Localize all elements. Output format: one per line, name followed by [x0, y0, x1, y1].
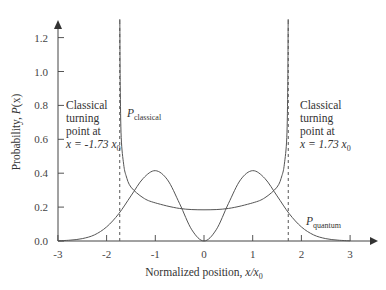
svg-text:0.6: 0.6 — [34, 133, 48, 145]
svg-text:-3: -3 — [53, 248, 63, 260]
svg-text:3: 3 — [347, 248, 353, 260]
svg-text:turning: turning — [66, 112, 99, 125]
svg-text:point at: point at — [66, 125, 102, 138]
svg-text:0.2: 0.2 — [34, 201, 48, 213]
svg-text:-2: -2 — [102, 248, 111, 260]
x-axis-label: Normalized position, x/x0 — [145, 266, 262, 281]
right-turning-annotation: Classical turning point at x = 1.73 x0 — [299, 99, 351, 153]
p-quantum-label: Pquantum — [305, 215, 342, 230]
svg-text:1.0: 1.0 — [34, 66, 48, 78]
svg-text:Classical: Classical — [300, 99, 342, 111]
svg-text:0: 0 — [201, 248, 207, 260]
svg-text:Classical: Classical — [66, 99, 108, 111]
svg-text:turning: turning — [300, 112, 333, 125]
svg-text:1: 1 — [250, 248, 256, 260]
svg-text:-1: -1 — [151, 248, 160, 260]
svg-text:x = 1.73 x0: x = 1.73 x0 — [299, 138, 351, 153]
svg-text:0.8: 0.8 — [34, 99, 48, 111]
svg-text:point at: point at — [300, 125, 336, 138]
left-turning-annotation: Classical turning point at x = -1.73 x0 — [65, 99, 121, 153]
p-classical-label: Pclassical — [126, 107, 162, 122]
svg-text:x = -1.73 x0: x = -1.73 x0 — [65, 138, 121, 153]
y-axis-label: Probability, P(x) — [10, 94, 23, 171]
svg-text:0.4: 0.4 — [34, 167, 48, 179]
svg-text:2: 2 — [299, 248, 305, 260]
svg-text:1.2: 1.2 — [34, 32, 48, 44]
svg-text:0.0: 0.0 — [34, 235, 48, 247]
probability-chart: -3-2-101230.00.20.40.60.81.01.2 Classica… — [0, 0, 386, 290]
quantum-curve — [58, 171, 350, 241]
turning-point-lines — [120, 26, 289, 241]
